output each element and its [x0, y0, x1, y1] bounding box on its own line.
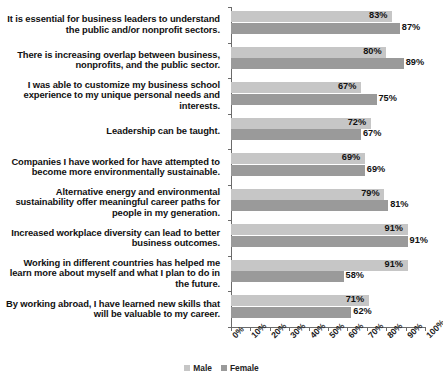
bar-value-label: 69% [342, 152, 360, 162]
bar-female [231, 58, 404, 69]
category-label: By working abroad, I have learned new sk… [2, 299, 220, 320]
bar-value-label: 71% [346, 294, 364, 304]
bar-female [231, 23, 400, 34]
legend-swatch-icon [184, 365, 190, 371]
bar-group: 80%89% [231, 43, 425, 79]
bar-group: 67%75% [231, 78, 425, 114]
bar-value-label: 67% [338, 81, 356, 91]
bar-value-label: 69% [367, 164, 385, 174]
category-label: Increased workplace diversity can lead t… [2, 228, 220, 249]
category-label: Alternative energy and environmental sus… [2, 187, 220, 219]
bar-value-label: 87% [402, 22, 420, 32]
category-label: Working in different countries has helpe… [2, 258, 220, 290]
category-label: Companies I have worked for have attempt… [2, 157, 220, 178]
x-axis-tick-label: 100% [424, 317, 443, 340]
x-axis-line: 0%10%20%30%40%50%60%70%80%90%100% [231, 327, 425, 328]
bar-male [231, 224, 408, 235]
legend-item-male[interactable]: Male [184, 363, 212, 373]
category-label: I was able to customize my business scho… [2, 80, 220, 112]
bar-value-label: 89% [406, 57, 424, 67]
grouped-bar-chart: It is essential for business leaders to … [0, 0, 443, 386]
legend-label: Male [193, 363, 212, 373]
bar-value-label: 75% [379, 93, 397, 103]
legend-label: Female [230, 363, 259, 373]
bar-female [231, 307, 351, 318]
bar-group: 91%58% [231, 256, 425, 292]
category-label: Leadership can be taught. [2, 126, 220, 137]
bar-value-label: 67% [363, 128, 381, 138]
bar-value-label: 79% [361, 188, 379, 198]
bar-group: 79%81% [231, 185, 425, 221]
bar-female [231, 271, 344, 282]
bar-value-label: 91% [385, 223, 403, 233]
category-axis-labels: It is essential for business leaders to … [0, 0, 226, 334]
bar-value-label: 72% [348, 117, 366, 127]
bar-male [231, 11, 392, 22]
bar-value-label: 58% [346, 270, 364, 280]
bar-value-label: 81% [390, 199, 408, 209]
bar-value-label: 91% [410, 235, 428, 245]
legend-item-female[interactable]: Female [221, 363, 259, 373]
bar-group: 69%69% [231, 149, 425, 185]
bar-group: 72%67% [231, 114, 425, 150]
legend-swatch-icon [221, 365, 227, 371]
bar-value-label: 62% [353, 306, 371, 316]
bar-female [231, 200, 388, 211]
bar-female [231, 94, 377, 105]
x-axis-tick-label: 0% [230, 324, 246, 340]
chart-legend: MaleFemale [0, 363, 443, 373]
bar-value-label: 80% [363, 46, 381, 56]
bar-male [231, 260, 408, 271]
bar-value-label: 83% [369, 10, 387, 20]
bar-female [231, 236, 408, 247]
bar-value-label: 91% [385, 259, 403, 269]
category-label: There is increasing overlap between busi… [2, 50, 220, 71]
bar-female [231, 129, 361, 140]
bar-group: 83%87% [231, 7, 425, 43]
plot-area: 83%87%80%89%67%75%72%67%69%69%79%81%91%9… [231, 7, 425, 327]
bar-female [231, 165, 365, 176]
category-label: It is essential for business leaders to … [2, 14, 220, 35]
bar-group: 91%91% [231, 220, 425, 256]
